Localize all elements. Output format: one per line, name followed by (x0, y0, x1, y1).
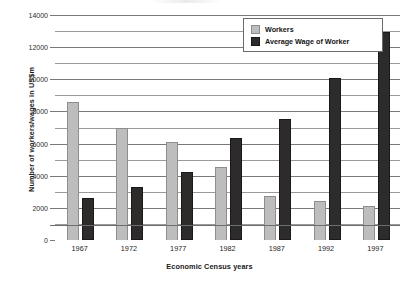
x-axis-tick-label: 1982 (219, 244, 235, 253)
legend-swatch-average-wage-icon (251, 37, 260, 46)
legend-item-average-wage: Average Wage of Worker (251, 35, 376, 47)
bar-workers-1987 (264, 196, 276, 240)
x-axis-tick-label: 1977 (170, 244, 186, 253)
bar-average-wage-1987 (279, 119, 291, 240)
bar-average-wage-1967 (82, 198, 94, 240)
legend-label-average-wage: Average Wage of Worker (265, 37, 349, 46)
y-axis-tick-mark (50, 208, 55, 209)
y-axis-tick-label: 8000 (32, 108, 48, 115)
legend-label-workers: Workers (265, 25, 294, 34)
y-axis-tick-mark (50, 79, 55, 80)
bar-average-wage-1972 (131, 187, 143, 240)
x-axis-line (50, 225, 400, 226)
bar-workers-1992 (314, 201, 326, 240)
bar-workers-1967 (67, 102, 79, 240)
x-axis-tick-label: 1972 (121, 244, 137, 253)
bar-chart: Number of workers/wages in US$m 02000400… (0, 0, 419, 283)
chart-legend: Workers Average Wage of Worker (243, 18, 383, 52)
y-axis-tick-mark (50, 111, 55, 112)
y-axis-tick-mark (50, 15, 55, 16)
legend-item-workers: Workers (251, 23, 376, 35)
y-axis-tick-mark (50, 176, 55, 177)
bar-group (116, 15, 141, 240)
x-axis-tick-label: 1987 (269, 244, 285, 253)
y-axis-tick-label: 2000 (32, 204, 48, 211)
y-axis-tick-label: 12000 (29, 44, 48, 51)
bar-average-wage-1977 (181, 172, 193, 240)
bar-group (67, 15, 92, 240)
y-axis-tick-label: 14000 (29, 12, 48, 19)
scan-artifact (150, 0, 270, 3)
y-axis-tick-label: 6000 (32, 140, 48, 147)
bar-workers-1972 (116, 128, 128, 240)
legend-swatch-workers-icon (251, 25, 260, 34)
y-axis-tick-label: 4000 (32, 172, 48, 179)
bar-average-wage-1992 (329, 78, 341, 240)
y-axis-tick-mark (50, 240, 55, 241)
y-axis-tick-mark (50, 144, 55, 145)
bar-average-wage-1997 (378, 32, 390, 240)
y-axis-tick-mark (50, 47, 55, 48)
y-axis-tick-label: 10000 (29, 76, 48, 83)
y-axis-tick-labels: 02000400060008000100001200014000 (0, 15, 48, 240)
y-axis-tick-label: 0 (44, 237, 48, 244)
x-axis-tick-label: 1992 (318, 244, 334, 253)
x-axis-tick-label: 1997 (367, 244, 383, 253)
x-axis-title: Economic Census years (0, 262, 419, 271)
bar-group (166, 15, 191, 240)
bar-workers-1982 (215, 167, 227, 240)
bar-workers-1997 (363, 206, 375, 240)
bar-group (215, 15, 240, 240)
x-axis-tick-label: 1967 (72, 244, 88, 253)
